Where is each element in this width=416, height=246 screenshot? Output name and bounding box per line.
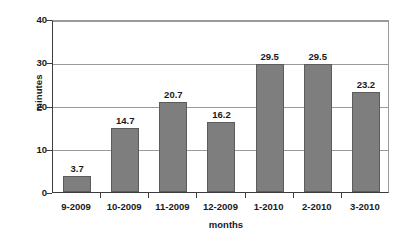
bar-group: 16.2 [197, 21, 245, 192]
x-axis-tick-mark [341, 193, 342, 198]
bar-group: 29.5 [294, 21, 342, 192]
x-axis-tick-label: 10-2009 [100, 201, 148, 212]
bar [159, 102, 187, 192]
y-axis-tick-labels: 010203040 [26, 0, 47, 246]
bar-value-label: 14.7 [116, 115, 135, 126]
x-axis-tick-mark [100, 193, 101, 198]
x-axis-tick-label: 9-2009 [52, 201, 100, 212]
plot-area: 3.714.720.716.229.529.523.2 [52, 20, 389, 193]
bar [304, 64, 332, 192]
bar [352, 92, 380, 192]
y-axis-tick-label: 20 [26, 102, 47, 112]
bar-value-label: 29.5 [309, 51, 328, 62]
x-axis-tick-mark [148, 193, 149, 198]
bar-group: 23.2 [342, 21, 390, 192]
bar-value-label: 3.7 [70, 163, 83, 174]
y-axis-tick-mark [46, 63, 52, 64]
y-axis-tick-label: 40 [26, 15, 47, 25]
x-axis-tick-mark [245, 193, 246, 198]
y-axis-tick-mark [46, 150, 52, 151]
x-axis-tick-label: 12-2009 [196, 201, 244, 212]
y-axis-tick-mark [46, 193, 52, 194]
y-axis-tick-mark [46, 20, 52, 21]
x-axis-tick-label: 3-2010 [341, 201, 389, 212]
bar-value-label: 20.7 [164, 89, 183, 100]
bar-value-label: 23.2 [357, 79, 376, 90]
bar-value-label: 29.5 [260, 51, 279, 62]
x-axis-tick-mark [293, 193, 294, 198]
x-axis-tick-mark [196, 193, 197, 198]
y-axis-tick-label: 0 [26, 188, 47, 198]
bar [207, 122, 235, 192]
bar-group: 29.5 [246, 21, 294, 192]
bar-group: 14.7 [101, 21, 149, 192]
x-axis-tick-label: 1-2010 [245, 201, 293, 212]
x-axis-tick-label: 2-2010 [293, 201, 341, 212]
bar-value-label: 16.2 [212, 109, 231, 120]
bar [111, 128, 139, 192]
y-axis-tick-label: 10 [26, 145, 47, 155]
bar-chart: minutes 010203040 3.714.720.716.229.529.… [0, 0, 416, 246]
x-axis-tick-label: 11-2009 [148, 201, 196, 212]
bar [256, 64, 284, 192]
bar [63, 176, 91, 192]
bar-group: 3.7 [53, 21, 101, 192]
bars: 3.714.720.716.229.529.523.2 [53, 21, 388, 192]
bar-group: 20.7 [149, 21, 197, 192]
x-axis-title: months [0, 219, 416, 231]
y-axis-tick-label: 30 [26, 58, 47, 68]
y-axis-tick-mark [46, 107, 52, 108]
